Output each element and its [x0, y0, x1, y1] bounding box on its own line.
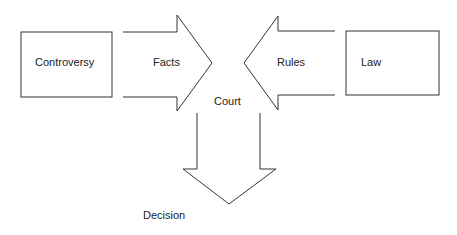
- legal-process-diagram: Controversy Facts Court Rules Law Decisi…: [0, 0, 457, 235]
- rules-label: Rules: [277, 56, 305, 68]
- facts-label: Facts: [153, 56, 180, 68]
- law-box: [346, 31, 439, 95]
- law-label: Law: [361, 56, 381, 68]
- decision-arrow: [183, 113, 276, 204]
- diagram-shapes: [0, 0, 457, 235]
- court-label: Court: [214, 95, 241, 107]
- decision-label: Decision: [143, 209, 185, 221]
- controversy-label: Controversy: [35, 56, 94, 68]
